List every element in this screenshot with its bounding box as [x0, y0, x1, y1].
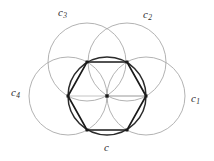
- label-c-base: c: [104, 141, 109, 153]
- label-c1: c1: [191, 93, 200, 104]
- point-vertex-bottom-right: [126, 129, 129, 132]
- point-vertex-c2: [126, 61, 129, 64]
- label-c4-sub: 4: [16, 91, 20, 100]
- label-c3: c3: [58, 7, 67, 18]
- outer-circles-group: [29, 23, 185, 135]
- point-vertex-bottom-left: [86, 129, 89, 132]
- geometry-figure: c3 c2 c4 c1 c: [0, 0, 214, 161]
- point-center: [105, 94, 108, 97]
- point-vertex-c4: [67, 95, 70, 98]
- figure-canvas: [0, 0, 214, 161]
- label-c2-sub: 2: [148, 13, 152, 22]
- label-c3-sub: 3: [63, 11, 67, 20]
- point-vertex-c3: [86, 61, 89, 64]
- point-vertex-c1: [145, 95, 148, 98]
- label-c4: c4: [11, 87, 20, 98]
- label-c: c: [104, 142, 109, 153]
- label-c1-sub: 1: [196, 97, 200, 106]
- label-c2: c2: [143, 9, 152, 20]
